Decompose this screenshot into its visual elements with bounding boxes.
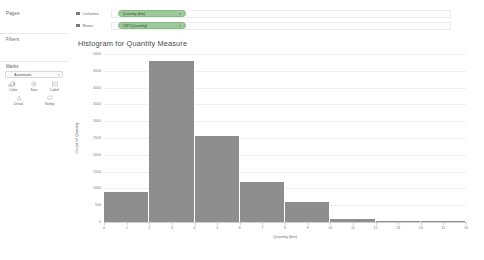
y-axis-tick-label: 3500 [93, 102, 101, 106]
rows-shelf-label: Rows [83, 23, 111, 28]
marks-button-color-label: Color [9, 88, 17, 92]
tableau-worksheet: Pages Filters Marks Automatic ▾ Color [0, 0, 484, 260]
x-axis-title: Quantity (bin) [104, 234, 466, 239]
y-axis-tick-label: 0 [99, 220, 101, 224]
y-axis-tick-label: 2000 [93, 153, 101, 157]
x-axis-tick-label: 7 [261, 226, 263, 230]
x-axis-tick-label: 3 [171, 226, 173, 230]
histogram-bar[interactable] [149, 61, 194, 222]
chevron-down-icon: ▾ [58, 73, 60, 77]
x-axis-tick-label: 5 [216, 226, 218, 230]
marks-button-size-label: Size [31, 88, 38, 92]
x-axis-line: 012345678910111213141516 [104, 222, 466, 223]
x-axis-tick [195, 222, 196, 225]
x-axis-tick-label: 10 [328, 226, 332, 230]
marks-button-tooltip[interactable]: Tooltip [41, 95, 58, 107]
tooltip-icon [46, 95, 53, 102]
x-axis-tick [376, 222, 377, 225]
pages-shelf-label: Pages [0, 8, 68, 16]
y-axis-tick-label: 5000 [93, 52, 101, 56]
y-axis-tick-label: 1500 [93, 170, 101, 174]
y-axis-tick-label: 4000 [93, 86, 101, 90]
rows-shelf: Rows CNT(Quantity) ▾ [76, 21, 451, 30]
shelves-area: Columns Quantity (bin) ▾ Rows CNT(Quanti… [68, 0, 484, 35]
x-axis-tick [285, 222, 286, 225]
marks-type-dropdown[interactable]: Automatic ▾ [5, 71, 63, 78]
columns-shelf-label: Columns [83, 11, 111, 16]
x-axis-tick-label: 9 [307, 226, 309, 230]
y-axis-tick-label: 3000 [93, 119, 101, 123]
sidebar: Pages Filters Marks Automatic ▾ Color [0, 0, 69, 260]
x-axis-tick [149, 222, 150, 225]
histogram-bar[interactable] [240, 182, 285, 222]
x-axis-tick-label: 14 [419, 226, 423, 230]
x-axis-tick [217, 222, 218, 225]
label-icon [51, 81, 58, 88]
x-axis-tick-label: 11 [351, 226, 355, 230]
marks-type-value: Automatic [14, 72, 58, 77]
size-icon [30, 81, 37, 88]
pill-quantity-bin[interactable]: Quantity (bin) ▾ [118, 10, 186, 17]
pill-quantity-bin-label: Quantity (bin) [123, 12, 177, 16]
x-axis-tick [127, 222, 128, 225]
histogram-bar[interactable] [195, 136, 240, 222]
x-axis-tick-label: 1 [126, 226, 128, 230]
plot-area: 0500100015002000250030003500400045005000 [104, 54, 466, 222]
x-axis-tick [443, 222, 444, 225]
pages-shelf[interactable]: Pages [0, 8, 68, 34]
marks-buttons-row-1: Color Size Label [0, 81, 68, 93]
x-axis-tick-label: 6 [239, 226, 241, 230]
x-axis-tick-label: 4 [194, 226, 196, 230]
filters-shelf[interactable]: Filters [0, 34, 68, 62]
marks-button-label-label: Label [50, 88, 59, 92]
marks-type-icon [8, 73, 12, 77]
chevron-down-icon: ▾ [179, 12, 181, 16]
x-axis-tick [172, 222, 173, 225]
y-axis-tick-label: 4500 [93, 69, 101, 73]
marks-button-detail[interactable]: Detail [10, 95, 27, 107]
marks-button-detail-label: Detail [14, 102, 23, 106]
x-axis-tick-label: 0 [103, 226, 105, 230]
y-axis-tick-label: 2500 [93, 136, 101, 140]
x-axis-tick-label: 13 [396, 226, 400, 230]
x-axis-tick-label: 15 [441, 226, 445, 230]
rows-bullet-icon [76, 24, 80, 28]
marks-button-label[interactable]: Label [46, 81, 63, 93]
marks-buttons-row-2: Detail Tooltip [0, 95, 68, 107]
y-axis-tick-label: 500 [95, 203, 101, 207]
y-axis-tick-label: 1000 [93, 186, 101, 190]
x-axis-tick-label: 16 [464, 226, 468, 230]
histogram-bar[interactable] [285, 202, 330, 222]
x-axis-tick [466, 222, 467, 225]
chevron-down-icon: ▾ [179, 24, 181, 28]
filters-shelf-label: Filters [0, 34, 68, 42]
x-axis-tick [262, 222, 263, 225]
marks-button-size[interactable]: Size [25, 81, 42, 93]
chart-title: Histogram for Quantity Measure [78, 39, 187, 48]
marks-card: Marks Automatic ▾ Color [0, 62, 68, 114]
x-axis-tick [398, 222, 399, 225]
x-axis-tick-label: 8 [284, 226, 286, 230]
columns-drop-zone[interactable]: Quantity (bin) ▾ [111, 10, 451, 18]
detail-icon [15, 95, 22, 102]
rows-drop-zone[interactable]: CNT(Quantity) ▾ [111, 22, 451, 30]
marks-card-label: Marks [0, 62, 68, 69]
x-axis-tick [421, 222, 422, 225]
columns-shelf: Columns Quantity (bin) ▾ [76, 9, 451, 18]
x-axis-tick [330, 222, 331, 225]
columns-bullet-icon [76, 12, 80, 16]
histogram-bar[interactable] [104, 192, 149, 222]
visualization-pane: Histogram for Quantity Measure Count of … [68, 34, 484, 260]
marks-button-tooltip-label: Tooltip [44, 102, 54, 106]
x-axis-tick [308, 222, 309, 225]
y-axis-title: Count of Quantity [74, 122, 79, 153]
pill-cnt-quantity[interactable]: CNT(Quantity) ▾ [118, 22, 186, 29]
x-axis-tick [353, 222, 354, 225]
x-axis-tick [104, 222, 105, 225]
x-axis-tick-label: 12 [374, 226, 378, 230]
color-palette-icon [10, 81, 17, 88]
x-axis-tick [240, 222, 241, 225]
x-axis-tick-label: 2 [148, 226, 150, 230]
gridline [104, 54, 466, 55]
pill-cnt-quantity-label: CNT(Quantity) [123, 24, 177, 28]
